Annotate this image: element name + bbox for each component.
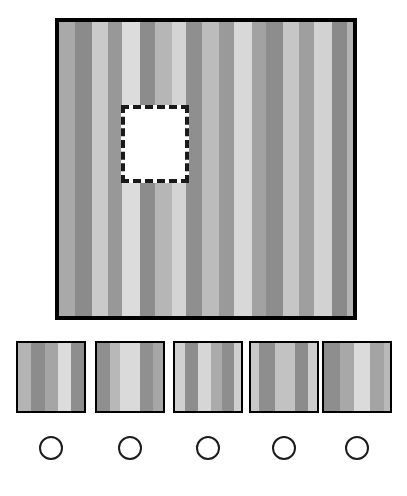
option-stripe-field [18, 343, 84, 411]
option-stripe [251, 343, 259, 411]
answer-circle-e[interactable] [345, 436, 369, 460]
option-stripe [211, 343, 222, 411]
option-thumbnail-d[interactable] [249, 341, 319, 413]
stimulus-stripe [299, 22, 314, 316]
option-stripe [234, 343, 241, 411]
option-stripe-field [324, 343, 390, 411]
option-stripe [97, 343, 110, 411]
option-stripe-field [97, 343, 163, 411]
option-stripe [120, 343, 140, 411]
option-thumbnail-e[interactable] [322, 341, 392, 413]
answer-circles-row [0, 432, 407, 468]
option-stripe-field [175, 343, 241, 411]
option-stripe [153, 343, 163, 411]
option-thumbnail-b[interactable] [95, 341, 165, 413]
option-stripe [354, 343, 370, 411]
answer-circle-a[interactable] [39, 436, 63, 460]
option-stripe [31, 343, 45, 411]
stimulus-stripe [75, 22, 92, 316]
option-thumbnail-a[interactable] [16, 341, 86, 413]
answer-circle-d[interactable] [272, 436, 296, 460]
option-stripe [340, 343, 354, 411]
option-stripe [198, 343, 211, 411]
stimulus-stripe [283, 22, 299, 316]
option-stripe [370, 343, 384, 411]
option-stripe [222, 343, 234, 411]
option-stripe [110, 343, 120, 411]
option-stripe [259, 343, 275, 411]
option-stripe [45, 343, 58, 411]
option-stripe [58, 343, 71, 411]
answer-circle-b[interactable] [118, 436, 142, 460]
option-stripe [275, 343, 295, 411]
option-stripe [185, 343, 198, 411]
stimulus-stripe [219, 22, 234, 316]
stimulus-stripe [59, 22, 75, 316]
stimulus-stripe [108, 22, 122, 316]
option-stripe [175, 343, 185, 411]
stimulus-stripe [314, 22, 332, 316]
stimulus-stripe-field [59, 22, 353, 316]
missing-piece-region [121, 105, 189, 183]
option-stripe [324, 343, 340, 411]
option-stripe [295, 343, 308, 411]
stimulus-stripe [332, 22, 347, 316]
option-stripe [308, 343, 317, 411]
stimulus-stripe [266, 22, 283, 316]
option-stripe [18, 343, 31, 411]
stimulus-stripe [347, 22, 353, 316]
option-thumbnail-c[interactable] [173, 341, 243, 413]
option-stripe [71, 343, 84, 411]
stimulus-panel [55, 18, 357, 320]
option-stripe-field [251, 343, 317, 411]
stimulus-stripe [252, 22, 266, 316]
stimulus-stripe [202, 22, 219, 316]
stimulus-stripe [92, 22, 108, 316]
option-stripe [140, 343, 153, 411]
option-stripe [384, 343, 390, 411]
answer-circle-c[interactable] [196, 436, 220, 460]
stimulus-stripe [234, 22, 252, 316]
option-thumbnails-row [0, 341, 407, 415]
